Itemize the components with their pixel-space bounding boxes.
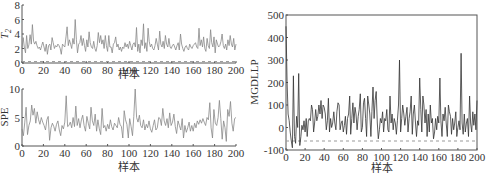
y-tick-label: 5	[15, 112, 21, 124]
chart-figure: 02040608010012014016018020002468样本T20204…	[0, 0, 489, 178]
x-tick-label: 160	[185, 147, 202, 159]
y-tick-label: 0	[15, 57, 21, 69]
x-tick-label: 200	[228, 147, 245, 159]
data-series-line	[22, 20, 236, 55]
x-tick-label: 140	[164, 64, 181, 76]
y-tick-label: 0	[15, 140, 21, 152]
spe-chart: 0204060801001201401601802000510样本SPE	[0, 83, 245, 173]
x-tick-label: 200	[228, 64, 245, 76]
x-tick-label: 80	[102, 147, 114, 159]
x-axis-label: 样本	[118, 67, 140, 80]
data-series-line	[286, 26, 477, 148]
x-tick-label: 120	[142, 147, 159, 159]
x-tick-label: 40	[319, 151, 331, 163]
y-tick-label: 4	[15, 28, 21, 40]
x-tick-label: 0	[283, 151, 289, 163]
x-tick-label: 20	[300, 151, 312, 163]
x-tick-label: 120	[142, 64, 159, 76]
y-axis-label: T2	[0, 29, 13, 39]
x-tick-label: 160	[431, 151, 448, 163]
x-tick-label: 200	[469, 151, 486, 163]
x-tick-label: 40	[59, 147, 71, 159]
x-tick-label: 100	[121, 147, 138, 159]
y-tick-label: 100	[268, 99, 285, 111]
x-tick-label: 120	[392, 151, 409, 163]
y-axis-label: SPE	[0, 107, 10, 126]
x-tick-label: 60	[81, 147, 93, 159]
x-tick-label: 20	[38, 64, 50, 76]
x-tick-label: 160	[185, 64, 202, 76]
y-tick-label: 200	[268, 77, 285, 89]
y-axis-label: MGDLLP	[248, 59, 260, 104]
x-tick-label: 20	[38, 147, 50, 159]
x-axis-label: 样本	[371, 161, 393, 174]
y-tick-label: 300	[268, 54, 285, 66]
y-tick-label: 10	[9, 83, 21, 95]
y-tick-label: 2	[15, 43, 21, 55]
x-axis-label: 样本	[118, 160, 140, 173]
x-tick-label: 60	[81, 64, 93, 76]
x-tick-label: 180	[450, 151, 467, 163]
x-tick-label: 140	[411, 151, 428, 163]
y-tick-label: 8	[15, 0, 21, 11]
y-tick-label: 6	[15, 14, 21, 26]
mgdllp-chart: 020406080100120140160180200-100010020030…	[248, 9, 486, 174]
y-tick-label: 400	[268, 32, 285, 44]
x-tick-label: 0	[19, 64, 25, 76]
y-tick-label: 0	[279, 122, 285, 134]
x-tick-label: 0	[19, 147, 25, 159]
t2-chart: 02040608010012014016018020002468样本T2	[0, 0, 245, 80]
x-tick-label: 60	[338, 151, 350, 163]
x-tick-label: 140	[164, 147, 181, 159]
x-tick-label: 180	[206, 147, 223, 159]
y-tick-label: -100	[264, 144, 285, 156]
x-tick-label: 80	[357, 151, 369, 163]
y-tick-label: 500	[268, 9, 285, 21]
plot-frame	[286, 15, 477, 150]
x-tick-label: 80	[102, 64, 114, 76]
x-tick-label: 180	[206, 64, 223, 76]
data-series-line	[22, 89, 236, 141]
x-tick-label: 40	[59, 64, 71, 76]
